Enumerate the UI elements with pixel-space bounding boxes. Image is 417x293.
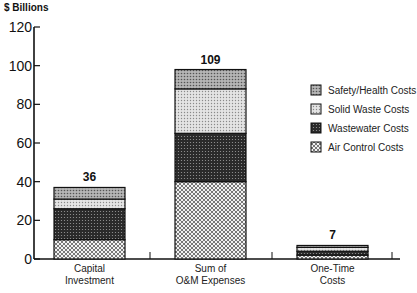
bar-segment [175,133,246,181]
legend-swatch-icon [311,123,321,133]
bar-segment [54,199,125,209]
bar-group: 109Sum ofO&M Expenses [175,53,246,286]
bar-group: 36CapitalInvestment [54,170,125,286]
y-tick-label: 120 [9,19,33,35]
x-category-label: Investment [65,275,114,286]
bar-segment [175,89,246,133]
legend-swatch-icon [311,142,321,152]
y-tick-label: 20 [16,212,32,228]
legend-item: Safety/Health Costs [311,85,416,96]
legend-swatch-icon [311,104,321,114]
y-tick-label: 100 [9,58,33,74]
legend-item: Air Control Costs [311,142,404,153]
bar-segment [175,182,246,259]
y-tick-label: 80 [16,96,32,112]
x-category-label: Capital [74,263,105,274]
x-category-label: Sum of [195,263,227,274]
x-category-label: Costs [320,275,346,286]
legend-label: Wastewater Costs [328,123,409,134]
legend-label: Air Control Costs [328,142,404,153]
bar-segment [297,245,368,247]
bar-total-label: 7 [329,228,336,242]
bar-total-label: 109 [200,53,220,67]
legend-label: Solid Waste Costs [328,104,409,115]
y-tick-label: 0 [24,251,32,267]
y-tick-label: 40 [16,174,32,190]
x-category-label: One-Time [310,263,355,274]
stacked-bar-chart: 020406080100120 36CapitalInvestment109Su… [0,0,417,293]
bar-segment [54,240,125,259]
legend-label: Safety/Health Costs [328,85,416,96]
bar-segment [54,187,125,199]
x-category-label: O&M Expenses [176,275,245,286]
legend-item: Wastewater Costs [311,123,409,134]
bar-total-label: 36 [83,170,97,184]
bar-segment [175,70,246,89]
legend: Safety/Health CostsSolid Waste CostsWast… [311,85,416,153]
legend-item: Solid Waste Costs [311,104,409,115]
legend-swatch-icon [311,85,321,95]
bar-segment [54,209,125,240]
bar-group: 7One-TimeCosts [297,228,368,286]
y-tick-label: 60 [16,135,32,151]
